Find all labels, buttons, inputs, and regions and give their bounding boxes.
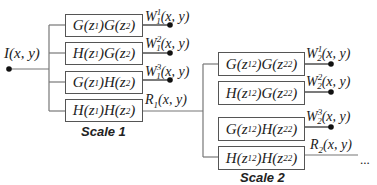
- input-label: I(x, y): [4, 45, 40, 62]
- output-w2-3: W32(x, y): [306, 107, 350, 126]
- input-node: [6, 66, 12, 72]
- output-w1-1: W11(x, y): [145, 7, 189, 26]
- filter-box-s2-gg: G(z12)G(z22): [218, 52, 305, 76]
- filter-box-s1-hh: H(z1)H(z2): [65, 99, 143, 122]
- output-w2-1: W12(x, y): [306, 44, 350, 63]
- scale2-title: Scale 2: [240, 170, 285, 185]
- output-w1-2: W21(x, y): [145, 34, 189, 53]
- filter-box-s2-gh: G(z12)H(z22): [218, 117, 305, 141]
- filter-box-s1-gh: G(z1)H(z2): [65, 71, 143, 94]
- continuation-ellipsis: ...: [360, 152, 370, 168]
- filter-box-s2-hh: H(z12)H(z22): [218, 146, 305, 170]
- connector-lines: [0, 0, 377, 185]
- output-r1: R1(x, y): [145, 92, 187, 110]
- output-w1-3: W31(x, y): [145, 62, 189, 81]
- output-r2: R2(x, y): [310, 137, 352, 155]
- filter-box-s1-hg: H(z1)G(z2): [65, 42, 143, 65]
- output-w2-2: W22(x, y): [306, 72, 350, 91]
- scale1-title: Scale 1: [81, 124, 126, 139]
- filter-box-s2-hg: H(z12)G(z22): [218, 81, 305, 105]
- filter-box-s1-gg: G(z1)G(z2): [65, 14, 143, 37]
